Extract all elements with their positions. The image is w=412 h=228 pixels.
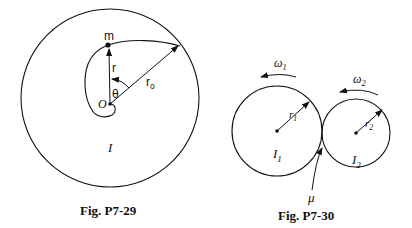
label-ro: ro — [146, 76, 155, 91]
label-omega1: ω1 — [274, 57, 287, 73]
radius-r-arrow — [109, 49, 110, 104]
label-omega2: ω2 — [353, 73, 366, 89]
friction-leader — [312, 148, 322, 190]
fig-p7-30 — [232, 75, 390, 191]
diagram-canvas — [0, 0, 412, 228]
label-r1: r1 — [289, 109, 297, 123]
label-inertia1: I1 — [273, 147, 282, 164]
label-inertia: I — [108, 141, 112, 154]
mass-point — [105, 42, 110, 47]
label-theta: θ — [112, 88, 119, 100]
label-origin: O — [98, 98, 107, 110]
caption-p7-29: Fig. P7-29 — [80, 203, 136, 219]
label-r: r — [112, 62, 116, 74]
label-r2: r2 — [365, 118, 373, 132]
omega1-arc — [261, 75, 296, 78]
label-mu: μ — [308, 191, 315, 204]
label-m: m — [104, 30, 114, 42]
radius-ro-arrow — [110, 46, 178, 104]
label-inertia2: I2 — [352, 153, 361, 170]
omega2-arc — [340, 90, 378, 95]
caption-p7-30: Fig. P7-30 — [278, 208, 334, 224]
